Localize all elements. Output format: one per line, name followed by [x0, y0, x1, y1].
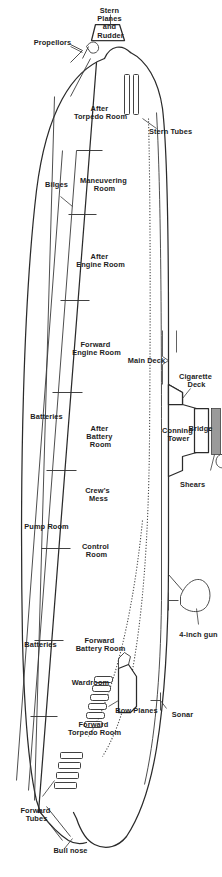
label-bridge: Bridge [188, 423, 212, 432]
svg-text:Bridge: Bridge [188, 423, 212, 432]
svg-text:After Engine Room: After Engine Room [76, 251, 125, 268]
svg-text:Control Room: Control Room [81, 541, 110, 558]
label-cigarette-deck: Cigarette Deck [178, 371, 213, 388]
propeller-shaft [70, 58, 90, 96]
label-forward-torpedo-room: Forward Torpedo Room [67, 719, 121, 736]
label-main-deck: Main Deck [127, 355, 165, 364]
lower-band-line-top [28, 150, 76, 790]
gun-barrel [168, 574, 182, 590]
cigarette-deck-platform [168, 384, 182, 404]
svg-text:Forward Tubes: Forward Tubes [20, 805, 52, 822]
label-control-room: Control Room [81, 541, 110, 558]
svg-text:Pump Room: Pump Room [24, 521, 69, 530]
fwd-tube-5 [86, 712, 104, 718]
svg-text:Bow Planes: Bow Planes [115, 705, 157, 714]
label-bilges: Bilges [45, 179, 68, 188]
label-after-battery-room: After Battery Room [86, 423, 114, 449]
fwd-lower-tube-3 [56, 772, 78, 778]
fwd-lower-tube-4 [54, 782, 76, 788]
fwd-lower-tube-2 [58, 762, 80, 768]
svg-text:Forward Battery Room: Forward Battery Room [75, 635, 125, 652]
svg-text:Main Deck: Main Deck [127, 355, 165, 364]
lower-band-line-bottom [16, 150, 62, 780]
label-after-engine-room: After Engine Room [76, 251, 125, 268]
svg-text:Forward Engine Room: Forward Engine Room [72, 339, 121, 356]
rotated-drawing-stage: Stern Tubes Stern Planes and Rudder Prop… [0, 0, 222, 877]
label-sonar: Sonar [171, 709, 192, 718]
main-deck-inner-line [144, 112, 161, 784]
label-forward-battery-room: Forward Battery Room [75, 635, 125, 652]
leader-four-inch-gun [196, 608, 198, 624]
forward-lower-tubes-group [54, 752, 82, 788]
svg-text:4-inch gun: 4-inch gun [179, 629, 218, 638]
bow-stem [73, 812, 126, 847]
label-four-inch-gun: 4-inch gun [179, 629, 218, 638]
svg-text:Cigarette Deck: Cigarette Deck [178, 371, 213, 388]
svg-text:Wardroom: Wardroom [71, 677, 109, 686]
propeller-blade-lower [70, 44, 82, 62]
svg-text:Stern Planes: Stern Planes and Rudder [97, 5, 124, 39]
label-stern-tubes: Stern Tubes [148, 126, 191, 135]
label-propellors: Propellors [33, 37, 71, 46]
stern-cap [104, 47, 130, 58]
svg-text:Shears: Shears [179, 479, 204, 488]
label-pump-room: Pump Room [24, 521, 69, 530]
svg-text:Bilges: Bilges [45, 179, 68, 188]
svg-text:Stern Tubes: Stern Tubes [148, 126, 191, 135]
radar-antenna [216, 454, 222, 467]
gun-shield [180, 579, 209, 611]
label-batteries-aft: Batteries [30, 411, 63, 420]
leader-shears [210, 454, 214, 470]
label-bow-planes: Bow Planes [115, 705, 157, 714]
svg-text:Sonar: Sonar [171, 709, 192, 718]
fwd-tube-3 [90, 694, 108, 700]
label-stern-planes-and-rudder: Stern Planes and Rudder [97, 5, 124, 39]
svg-text:Batteries: Batteries [24, 639, 57, 648]
label-forward-engine-room: Forward Engine Room [72, 339, 121, 356]
stern-tube-slot-2 [124, 74, 129, 114]
svg-text:Propellors: Propellors [33, 37, 71, 46]
label-crews-mess: Crew's Mess [85, 485, 112, 502]
keel-line [34, 96, 54, 800]
svg-text:Batteries: Batteries [30, 411, 63, 420]
leader-cigarette-deck [182, 388, 190, 398]
label-bull-nose: Bull nose [53, 845, 87, 854]
svg-text:After Battery: After Battery Room [86, 423, 114, 449]
svg-text:Forward Torpedo Room: Forward Torpedo Room [67, 719, 121, 736]
label-shears: Shears [179, 479, 204, 488]
label-batteries-forward: Batteries [24, 639, 57, 648]
svg-text:Bull nose: Bull nose [53, 845, 87, 854]
fwd-tube-4 [88, 703, 106, 709]
label-after-torpedo-room: After Torpedo Room [73, 103, 127, 120]
fwd-lower-tube-1 [60, 752, 82, 758]
svg-text:Crew's Mess: Crew's Mess [85, 485, 112, 502]
stern-tube-slot-1 [133, 74, 138, 114]
leader-forward-tubes [42, 780, 54, 796]
submarine-profile-svg: Stern Tubes Stern Planes and Rudder Prop… [0, 0, 222, 877]
svg-text:After Torpedo Room: After Torpedo Room [73, 103, 127, 120]
submarine-cutaway-diagram: Stern Tubes Stern Planes and Rudder Prop… [0, 0, 222, 877]
leader-bilges [60, 196, 72, 206]
label-forward-tubes: Forward Tubes [20, 805, 52, 822]
label-wardroom: Wardroom [71, 677, 109, 686]
